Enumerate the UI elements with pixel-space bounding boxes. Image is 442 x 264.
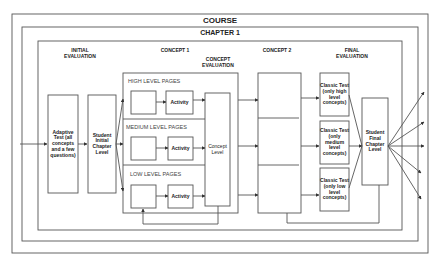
chapter-title: CHAPTER 1: [180, 29, 260, 37]
high-level-pages-label: HIGH LEVEL PAGES: [128, 78, 208, 84]
concept1-label: CONCEPT 1: [150, 48, 200, 54]
concept2-box: [258, 73, 301, 213]
concept-level-text: Concept Level: [205, 93, 230, 206]
student-final-text: Student Final Chapter Level: [362, 98, 388, 185]
classic-test-medium: Classic Test (only medium level concepts…: [320, 121, 349, 164]
low-level-pages-label: LOW LEVEL PAGES: [130, 171, 210, 177]
activity-medium: Activity: [168, 137, 193, 160]
classic-test-low: Classic Test (only low level concepts): [320, 168, 349, 211]
course-title: COURSE: [180, 16, 260, 25]
student-initial-text: Student Initial Chapter Level: [88, 95, 116, 193]
initial-evaluation-label: INITIAL EVALUATION: [58, 48, 102, 60]
classic-test-high: Classic Test (only high level concepts): [320, 73, 349, 116]
activity-high: Activity: [166, 91, 193, 114]
concept-evaluation-label: CONCEPT EVALUATION: [196, 57, 240, 69]
medium-level-pages-label: MEDIUM LEVEL PAGES: [126, 124, 206, 130]
activity-low: Activity: [168, 185, 193, 208]
adaptive-test-text: Adaptive Test (all concepts and a few qu…: [48, 95, 78, 193]
concept2-label: CONCEPT 2: [252, 48, 302, 54]
final-evaluation-label: FINAL EVALUATION: [330, 48, 374, 60]
